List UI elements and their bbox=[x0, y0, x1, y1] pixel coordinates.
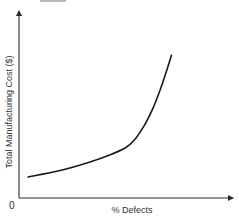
cost-vs-defects-chart: 0 % Defects Total Manufacturing Cost ($) bbox=[0, 0, 239, 218]
cropped-text-fragment bbox=[40, 0, 66, 2]
series-line-0 bbox=[28, 55, 171, 177]
x-axis-label: % Defects bbox=[111, 205, 153, 215]
y-axis-label: Total Manufacturing Cost ($) bbox=[4, 55, 14, 168]
series-layer bbox=[28, 55, 171, 177]
origin-label: 0 bbox=[9, 200, 15, 211]
